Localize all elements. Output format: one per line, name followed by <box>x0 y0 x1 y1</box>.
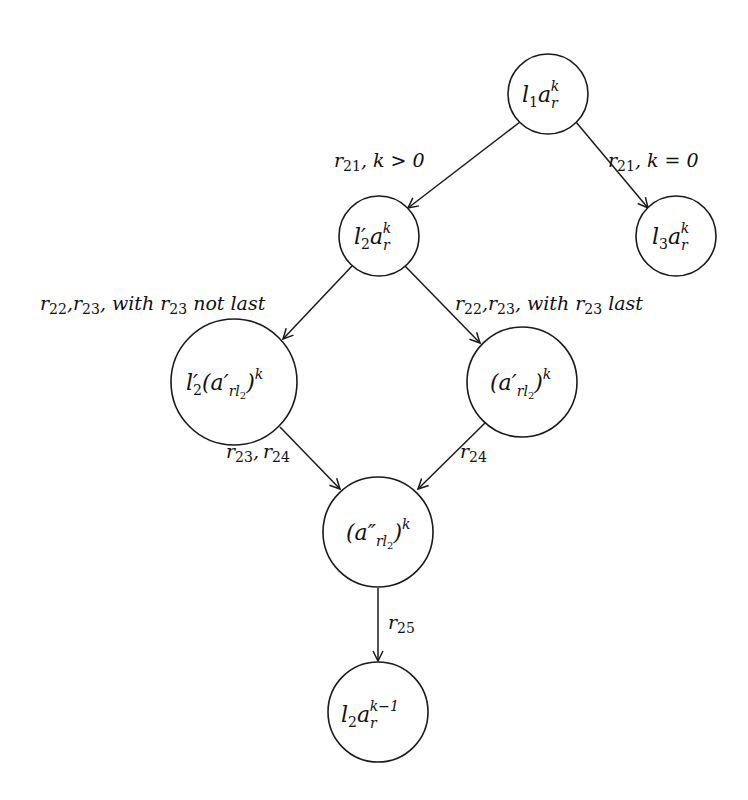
node-main: l <box>522 82 529 107</box>
node-circle <box>323 477 433 587</box>
node-circle <box>467 327 577 437</box>
edge-label-n2-n4: r22,r23, with r23 not last <box>40 292 266 317</box>
node-n7: l2ark−1 <box>328 662 428 762</box>
edge-label-n1-n2: r21, k > 0 <box>334 149 425 174</box>
node-n1: l1ark <box>508 54 588 134</box>
node-n4: l′2(a′rl2)k <box>171 319 297 445</box>
diagram-canvas: l1ark l′2ark l3ark l′2(a′rl2)k (a′rl2)k … <box>0 0 748 800</box>
node-n2: l′2ark <box>339 196 419 276</box>
edge-n1-n2 <box>408 122 520 208</box>
svg-text:l3ark: l3ark <box>652 220 689 253</box>
node-n6: (a″rl2)k <box>323 477 433 587</box>
svg-text:l1ark: l1ark <box>522 78 559 111</box>
edge-n2-n4 <box>283 266 352 339</box>
edge-label-n1-n3: r21, k = 0 <box>608 149 699 174</box>
edge-label-n2-n5: r22,r23, with r23 last <box>455 292 643 317</box>
node-n5: (a′rl2)k <box>467 327 577 437</box>
node-n3: l3ark <box>636 196 716 276</box>
edge-label-n6-n7: r25 <box>388 611 415 636</box>
edge-label-n5-n6: r24 <box>460 440 487 465</box>
svg-text:l′2ark: l′2ark <box>354 220 391 253</box>
